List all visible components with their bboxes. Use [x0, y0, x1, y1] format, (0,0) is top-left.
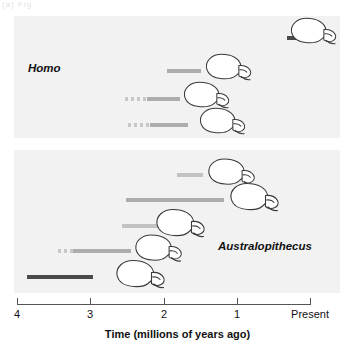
range-bar — [177, 173, 203, 177]
skull-icon — [197, 106, 249, 136]
range-bar — [73, 249, 131, 253]
skull-icon — [203, 52, 255, 82]
range-bar — [147, 97, 180, 101]
genus-label-homo: Homo — [28, 62, 61, 74]
axis-tick — [90, 298, 91, 305]
axis-tick-label: 3 — [87, 308, 93, 320]
range-bar — [167, 69, 201, 73]
time-axis: 4321Present Time (millions of years ago) — [0, 296, 355, 353]
axis-title: Time (millions of years ago) — [0, 328, 355, 340]
axis-tick-label: 4 — [14, 308, 20, 320]
skull-icon — [114, 258, 168, 290]
axis-tick — [17, 298, 18, 305]
range-bar — [27, 275, 93, 279]
axis-tick-label: 1 — [234, 308, 240, 320]
range-bar — [150, 123, 188, 127]
range-bar-uncertain — [58, 249, 73, 253]
corner-mark: (a) Fig — [2, 0, 32, 9]
skull-icon — [228, 181, 282, 213]
axis-tick — [237, 298, 238, 305]
axis-tick-label: 2 — [161, 308, 167, 320]
axis-tick-label: Present — [291, 308, 329, 320]
skull-icon — [288, 16, 340, 46]
range-bar-uncertain — [125, 97, 147, 101]
genus-label-australopithecus: Australopithecus — [218, 240, 312, 252]
range-bar-uncertain — [128, 123, 150, 127]
axis-tick — [164, 298, 165, 305]
range-bar — [126, 198, 224, 202]
axis-tick — [310, 298, 311, 305]
